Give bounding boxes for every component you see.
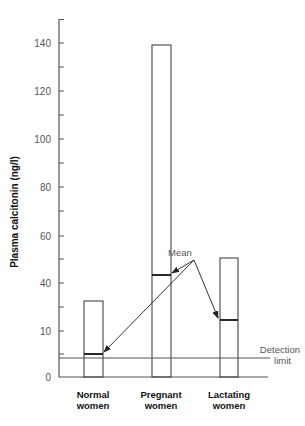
mean-label: Mean [168,247,192,258]
y-tick-label: 10 [40,326,52,337]
mean-arrow [104,260,194,352]
bar-normal-women [84,301,103,377]
detection-limit: Detectionlimit [59,344,300,366]
bar-pregnant-women [152,45,171,377]
svg-text:women: women [212,400,246,411]
svg-text:limit: limit [274,355,291,366]
y-tick-label: 60 [40,231,52,242]
y-tick-label: 120 [34,86,51,97]
y-axis: 010406080100120140 [34,19,268,383]
x-category-label: Normal [77,389,110,400]
bars [84,45,238,377]
svg-text:women: women [76,400,110,411]
calcitonin-bar-chart: 010406080100120140 Detectionlimit Mean N… [0,0,305,426]
bar-lactating-women [220,258,238,377]
x-category-label: Lactating [208,389,250,400]
svg-text:women: women [144,400,178,411]
y-tick-label: 140 [34,38,51,49]
mean-arrow [194,260,218,318]
y-tick-label: 100 [34,134,51,145]
x-category-labels: NormalwomenPregnantwomenLactatingwomen [76,389,251,411]
y-tick-label: 80 [40,182,52,193]
y-axis-title: Plasma calcitonin (ng/l) [9,156,20,268]
x-category-label: Pregnant [140,389,182,400]
mean-annotation: Mean [104,247,218,352]
y-tick-label: 40 [40,278,52,289]
detection-limit-label: Detection [260,344,300,355]
y-tick-label: 0 [45,372,51,383]
